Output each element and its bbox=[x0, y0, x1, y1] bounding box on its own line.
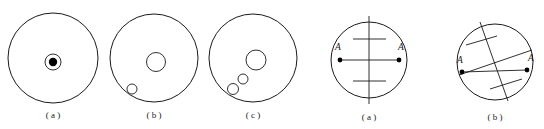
figure-a-circle-with-dot: ( a ) bbox=[8, 13, 98, 120]
point-label-a-left: A bbox=[334, 42, 341, 52]
figure-caption: ( b ) bbox=[147, 110, 162, 120]
geometry-figure-canvas: ( a ) ( b ) ( c ) A A ( bbox=[0, 0, 544, 129]
tick-mark-lower bbox=[490, 79, 522, 89]
figure-caption: ( b ) bbox=[488, 112, 503, 122]
oblique-axis-line bbox=[480, 22, 508, 101]
endpoint-dot-left bbox=[460, 70, 465, 75]
figure-caption: ( c ) bbox=[246, 110, 261, 120]
figure-b-oblique-bisector: A A ( b ) bbox=[456, 22, 534, 122]
figure-caption: ( a ) bbox=[362, 112, 377, 122]
inner-circle-small bbox=[127, 84, 137, 94]
inner-circle-small-lower bbox=[228, 84, 239, 95]
point-label-a-left: A bbox=[456, 55, 463, 65]
point-label-a-right: A bbox=[527, 53, 534, 63]
outer-circle bbox=[457, 24, 533, 100]
figure-a-perpendicular-bisector: A A ( a ) bbox=[331, 16, 407, 122]
center-dot bbox=[49, 58, 57, 66]
endpoint-dot-right bbox=[525, 68, 530, 73]
tick-mark-upper bbox=[466, 36, 497, 45]
outer-circle bbox=[209, 14, 297, 102]
inner-circle-small-upper bbox=[238, 74, 248, 84]
figure-caption: ( a ) bbox=[46, 110, 61, 120]
outer-circle bbox=[110, 14, 198, 102]
figure-c-circle-three-holes: ( c ) bbox=[209, 14, 297, 120]
point-label-a-right: A bbox=[397, 42, 404, 52]
inner-circle-large bbox=[246, 50, 266, 70]
figure-b-circle-two-holes: ( b ) bbox=[110, 14, 198, 120]
endpoint-dot-left bbox=[338, 58, 343, 63]
inner-circle-large bbox=[147, 53, 166, 72]
figure-strip: ( a ) ( b ) ( c ) A A ( bbox=[0, 0, 544, 129]
endpoint-dot-right bbox=[397, 58, 402, 63]
